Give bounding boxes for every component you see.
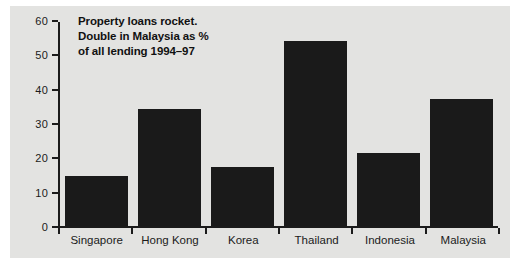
- bar-korea: [211, 167, 274, 227]
- bar-slot: [425, 22, 498, 226]
- x-axis-label-malaysia: Malaysia: [427, 234, 500, 246]
- bar-slot: [60, 22, 133, 226]
- bar-slot: [133, 22, 206, 226]
- y-axis-tick: 30: [52, 123, 58, 125]
- y-axis-tick-label: 40: [35, 84, 48, 96]
- y-axis-tick-label: 60: [35, 15, 48, 27]
- x-axis-label-korea: Korea: [207, 234, 280, 246]
- x-axis-label-hong-kong: Hong Kong: [133, 234, 206, 246]
- bar-indonesia: [357, 153, 420, 226]
- x-axis-label-indonesia: Indonesia: [353, 234, 426, 246]
- y-axis-tick: 50: [52, 54, 58, 56]
- y-axis-tick-label: 20: [35, 152, 48, 164]
- x-axis-labels: SingaporeHong KongKoreaThailandIndonesia…: [60, 234, 500, 246]
- y-axis-tick-label: 50: [35, 49, 48, 61]
- chart-panel: Property loans rocket. Double in Malaysi…: [10, 6, 510, 258]
- plot-area: 0102030405060: [58, 22, 498, 228]
- bar-series: [60, 22, 498, 226]
- bar-slot: [352, 22, 425, 226]
- bar-malaysia: [430, 99, 493, 227]
- y-axis-tick: 40: [52, 89, 58, 91]
- y-axis-tick-label: 30: [35, 118, 48, 130]
- x-axis-label-singapore: Singapore: [60, 234, 133, 246]
- bar-thailand: [284, 41, 347, 226]
- y-axis-tick: 60: [52, 20, 58, 22]
- y-axis-tick: 20: [52, 157, 58, 159]
- x-axis-label-thailand: Thailand: [280, 234, 353, 246]
- y-axis-tick: 10: [52, 192, 58, 194]
- bar-slot: [279, 22, 352, 226]
- bar-hong-kong: [138, 109, 201, 226]
- y-axis-tick-label: 0: [42, 221, 48, 233]
- bar-slot: [206, 22, 279, 226]
- bar-singapore: [65, 176, 128, 226]
- y-axis-tick-label: 10: [35, 187, 48, 199]
